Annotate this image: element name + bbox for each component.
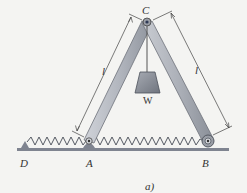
- label-w: W: [143, 95, 153, 106]
- label-l-left: l: [102, 65, 105, 77]
- label-c: C: [142, 4, 150, 16]
- weight-w: [135, 72, 160, 93]
- roller-b: [202, 135, 214, 147]
- mechanism-diagram: C l l W D A B a): [0, 0, 247, 193]
- label-d: D: [19, 157, 28, 169]
- diagram-canvas: C l l W D A B a): [0, 0, 247, 193]
- pin-c: [143, 18, 151, 26]
- label-a: A: [85, 157, 93, 169]
- label-b: B: [202, 157, 209, 169]
- figure-caption: a): [145, 180, 155, 193]
- spring-ab: [92, 137, 204, 145]
- spring-da: [27, 137, 86, 145]
- label-l-right: l: [195, 64, 198, 76]
- support-d: [21, 141, 29, 148]
- ground: [17, 148, 229, 151]
- pin-a: [86, 138, 92, 144]
- dimension-left: [72, 14, 142, 137]
